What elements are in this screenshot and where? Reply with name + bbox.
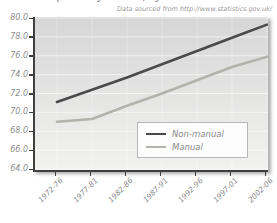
legend-entry-manual: Manual xyxy=(146,142,247,152)
y-tick-label: 70.0 xyxy=(10,107,28,116)
legend-box: Non-manualManual xyxy=(137,122,248,158)
y-axis-tick xyxy=(29,150,33,152)
y-axis-tick xyxy=(29,55,33,57)
y-tick-label: 64.0 xyxy=(10,164,28,173)
x-axis-tick xyxy=(90,172,92,176)
x-axis-tick xyxy=(160,172,162,176)
chart-title-clipped: Life expectancy at birth, by social clas… xyxy=(24,0,234,4)
legend-line-swatch xyxy=(146,146,166,148)
x-tick-label: 1992-96 xyxy=(176,176,205,205)
y-tick-label: 80.0 xyxy=(10,13,28,22)
y-axis-tick xyxy=(29,74,33,76)
y-axis-tick xyxy=(29,93,33,95)
y-axis-tick xyxy=(29,18,33,20)
x-tick-label: 1997-01 xyxy=(211,176,240,205)
y-tick-label: 74.0 xyxy=(10,70,28,79)
source-note: Data sourced from http://www.statistics.… xyxy=(117,5,272,13)
y-tick-label: 72.0 xyxy=(10,89,28,98)
x-axis-tick xyxy=(195,172,197,176)
x-tick-label: 1977-81 xyxy=(71,176,100,205)
x-axis-tick xyxy=(230,172,232,176)
x-tick-label: 2002-06 xyxy=(246,176,275,205)
y-tick-label: 78.0 xyxy=(10,32,28,41)
y-tick-label: 66.0 xyxy=(10,145,28,154)
y-axis-tick xyxy=(29,36,33,38)
x-axis-tick xyxy=(125,172,127,176)
x-tick-label: 1972-76 xyxy=(36,176,65,205)
chart-title-text: Life expectancy at birth, by social clas… xyxy=(24,0,221,2)
y-axis-tick xyxy=(29,169,33,171)
y-axis-tick xyxy=(29,112,33,114)
y-tick-label: 76.0 xyxy=(10,51,28,60)
x-tick-label: 1987-91 xyxy=(141,176,170,205)
y-axis-tick xyxy=(29,131,33,133)
x-axis-tick xyxy=(55,172,57,176)
legend-label: Non-manual xyxy=(172,129,224,139)
legend-label: Manual xyxy=(172,142,203,152)
x-tick-label: 1982-86 xyxy=(106,176,135,205)
x-axis-tick xyxy=(265,172,267,176)
legend-entry-non-manual: Non-manual xyxy=(146,129,247,139)
legend-line-swatch xyxy=(146,133,166,135)
y-tick-label: 68.0 xyxy=(10,126,28,135)
